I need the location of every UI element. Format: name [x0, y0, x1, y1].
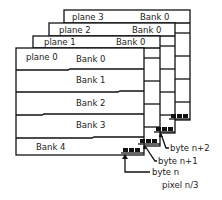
bank-4-label: Bank 4	[36, 142, 65, 152]
plane-1-bank0-label: Bank 0	[116, 37, 145, 47]
bank-plane-diagram: plane 3 Bank 0 plane 2 Bank 0 plane 1 Ba…	[0, 0, 222, 200]
bank-0-label: Bank 0	[76, 54, 105, 64]
bank-3-label: Bank 3	[76, 120, 105, 130]
byte-n-label: byte n	[152, 167, 179, 177]
plane-0-frame: plane 0 Bank 0 Bank 1 Bank 2 Bank 3 Bank…	[16, 48, 144, 155]
byte-n2-label: byte n+2	[170, 143, 210, 153]
plane-1-label: plane 1	[44, 37, 76, 47]
bank-1-label: Bank 1	[76, 75, 105, 85]
byte-n2-arrow: byte n+2	[159, 133, 210, 153]
plane-0-label: plane 0	[26, 52, 58, 62]
plane-2-bank0-label: Bank 0	[132, 25, 161, 35]
plane-2-label: plane 2	[59, 25, 91, 35]
plane-3-bank0-label: Bank 0	[140, 12, 169, 22]
plane-3-label: plane 3	[72, 12, 104, 22]
pixel-label: pixel n/3	[162, 180, 198, 190]
byte-n1-label: byte n+1	[158, 156, 198, 166]
bank-2-label: Bank 2	[76, 98, 105, 108]
